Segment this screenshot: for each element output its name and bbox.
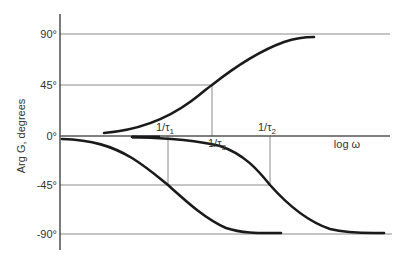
tick-45: 45° <box>40 79 57 91</box>
marker-tau3: 1/τ3 <box>208 137 227 152</box>
tick-minus90: -90° <box>37 228 57 240</box>
tick-minus45: -45° <box>37 179 57 191</box>
tick-90: 90° <box>40 28 57 40</box>
marker-tau2: 1/τ2 <box>258 121 277 136</box>
tick-0: 0° <box>46 130 57 142</box>
phase-diagram: 90° 45° 0° -45° -90° Arg G, degrees log … <box>0 0 411 266</box>
y-axis-label: Arg G, degrees <box>15 98 27 173</box>
marker-tau1: 1/τ1 <box>156 121 175 136</box>
curve-phase-lag-tau1 <box>62 139 281 233</box>
x-axis-label: log ω <box>334 138 361 150</box>
phase-plot-svg: 90° 45° 0° -45° -90° Arg G, degrees log … <box>0 0 411 266</box>
